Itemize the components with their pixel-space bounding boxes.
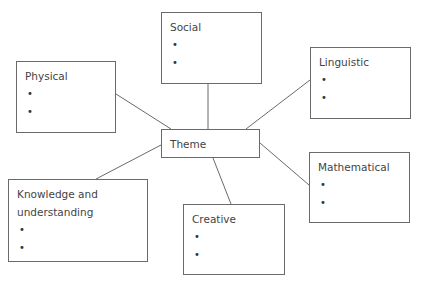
node-linguistic: Linguistic • • xyxy=(310,47,411,119)
bullet-point: • xyxy=(192,228,276,246)
bullet-point: • xyxy=(319,89,402,107)
connector-physical xyxy=(116,94,171,129)
connector-knowledge xyxy=(96,145,161,179)
bullet-point: • xyxy=(318,194,401,212)
node-theme-center: Theme xyxy=(161,129,260,158)
bullet-point: • xyxy=(192,246,276,264)
bullet-point: • xyxy=(17,239,139,257)
node-title: Physical xyxy=(25,67,107,85)
connector-mathematical xyxy=(260,143,309,185)
connector-creative xyxy=(213,158,231,204)
bullet-point: • xyxy=(319,71,402,89)
node-title: Linguistic xyxy=(319,53,402,71)
node-physical: Physical • • xyxy=(16,61,116,133)
node-knowledge-and-understanding: Knowledge and understanding • • xyxy=(8,179,148,262)
bullet-point: • xyxy=(170,36,253,54)
node-title: Mathematical xyxy=(318,158,401,176)
node-title: Creative xyxy=(192,210,276,228)
bullet-point: • xyxy=(170,54,253,72)
bullet-point: • xyxy=(25,103,107,121)
node-title: Social xyxy=(170,18,253,36)
node-title-line1: Knowledge and xyxy=(17,185,139,203)
node-social: Social • • xyxy=(161,12,262,84)
bullet-point: • xyxy=(318,176,401,194)
connector-linguistic xyxy=(246,80,310,129)
node-mathematical: Mathematical • • xyxy=(309,152,410,223)
node-title-line2: understanding xyxy=(17,203,139,221)
node-creative: Creative • • xyxy=(183,204,285,275)
theme-label: Theme xyxy=(170,135,206,153)
bullet-point: • xyxy=(17,221,139,239)
bullet-point: • xyxy=(25,85,107,103)
